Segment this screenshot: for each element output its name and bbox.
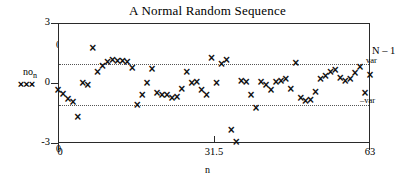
chart-root: A Normal Random Sequence non ××× 3 0 -3 … [0,0,415,182]
x-tick-label-middle: 31.5 [196,147,232,158]
variance-upper-annotation: var [366,56,377,65]
x-tick-label-left: 0 [48,147,72,158]
y-tick-label-bottom: -3 [20,137,50,148]
y-tick-top [51,23,58,24]
y-axis-label-text: no [23,66,33,77]
x-tick-middle [214,136,215,143]
plot-frame [58,23,370,143]
variance-lower-annotation: –var [360,96,375,105]
chart-title: A Normal Random Sequence [0,4,415,17]
x-axis-label: n [0,165,415,175]
plot-area [59,24,369,142]
y-tick-label-middle: 0 [20,77,50,88]
x-tick-label-right: 63 [358,147,382,158]
reference-line-lower [59,105,369,106]
y-tick-label-top: 3 [20,17,50,28]
